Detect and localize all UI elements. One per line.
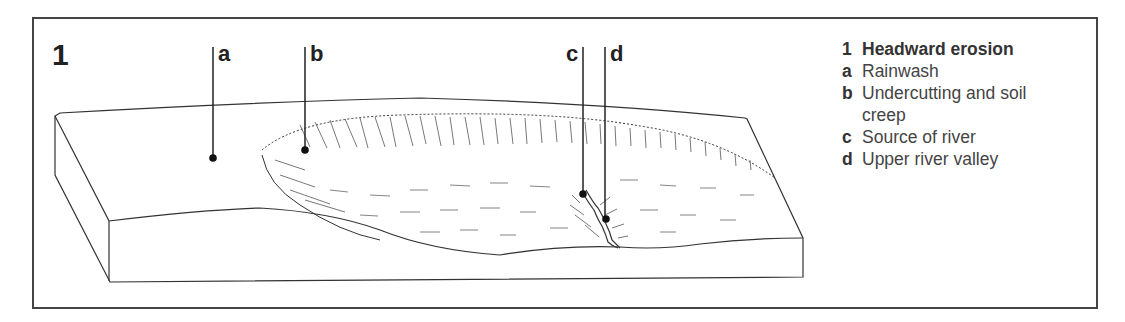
legend-text: Source of river	[862, 126, 1062, 148]
legend-key: d	[842, 148, 862, 170]
callout-d: d	[610, 41, 623, 67]
legend-key: c	[842, 126, 862, 148]
legend-title-row: 1 Headward erosion	[842, 38, 1062, 60]
legend-item-c: c Source of river	[842, 126, 1062, 148]
legend-title-key: 1	[842, 38, 862, 60]
callout-a: a	[218, 41, 230, 67]
callout-c: c	[566, 41, 578, 67]
callout-b: b	[310, 41, 323, 67]
legend-text: Upper river valley	[862, 148, 1062, 170]
legend-item-d: d Upper river valley	[842, 148, 1062, 170]
legend-text: Undercutting and soil creep	[862, 82, 1062, 126]
legend-item-b: b Undercutting and soil creep	[842, 82, 1062, 126]
legend: 1 Headward erosion a Rainwash b Undercut…	[842, 38, 1062, 170]
legend-item-a: a Rainwash	[842, 60, 1062, 82]
legend-key: b	[842, 82, 862, 126]
legend-key: a	[842, 60, 862, 82]
legend-text: Rainwash	[862, 60, 1062, 82]
legend-title: Headward erosion	[862, 38, 1062, 60]
